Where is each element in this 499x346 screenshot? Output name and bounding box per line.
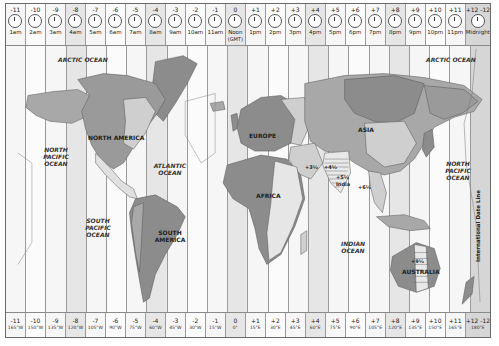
footer-zone-date-line: +12 -12180°E <box>466 313 490 337</box>
local-time: 9am <box>166 29 185 36</box>
local-time: 8am <box>146 29 165 36</box>
header-zone: -48am <box>146 4 166 45</box>
australia-label: AUSTRALIA <box>402 268 440 275</box>
utc-offset: +6 <box>346 6 365 13</box>
local-time: 6pm <box>346 29 365 36</box>
north-pacific-ocean-west-label: NORTH PACIFIC OCEAN <box>36 146 76 167</box>
header-zone: +22pm <box>266 4 286 45</box>
utc-offset: -5 <box>126 317 145 325</box>
local-time: 11am <box>206 29 225 36</box>
local-time: 10pm <box>426 29 445 36</box>
longitude: 135°E <box>406 325 425 331</box>
longitude: 15°W <box>206 325 225 331</box>
clock-icon <box>471 14 485 28</box>
header-zone: +33pm <box>286 4 306 45</box>
clock-icon <box>68 14 82 28</box>
header-zone: -93am <box>46 4 66 45</box>
longitude: 60°E <box>306 325 325 331</box>
longitude: 90°W <box>106 325 125 331</box>
clock-icon <box>308 14 322 28</box>
longitude: 135°W <box>46 325 65 331</box>
clock-icon <box>448 14 462 28</box>
clock-icon <box>108 14 122 28</box>
utc-offset: +1 <box>246 317 265 325</box>
south-pacific-ocean-label: SOUTH PACIFIC OCEAN <box>78 217 118 238</box>
south-america-label: SOUTH AMERICA <box>150 229 190 243</box>
footer-zone: +9135°E <box>406 313 426 337</box>
atlantic-ocean-label: ATLANTIC OCEAN <box>146 162 194 176</box>
utc-offset: +4 <box>306 317 325 325</box>
header-zone-gmt: 0Noon(GMT) <box>226 4 246 45</box>
longitude: 150°W <box>26 325 45 331</box>
north-pacific-ocean-east-label: NORTH PACIFIC OCEAN <box>438 160 478 181</box>
footer-zone: -230°W <box>186 313 206 337</box>
local-time: 10am <box>186 29 205 36</box>
utc-offset: -3 <box>166 6 185 13</box>
footer-zone: -7105°W <box>86 313 106 337</box>
header-zone: +1111pm <box>446 4 466 45</box>
utc-offset: -1 <box>206 317 225 325</box>
footer-zone: +10150°E <box>426 313 446 337</box>
clock-icon <box>208 14 222 28</box>
longitude: 60°W <box>146 325 165 331</box>
utc-offset: -6 <box>106 317 125 325</box>
longitude: 30°E <box>266 325 285 331</box>
utc-offset: +3 <box>286 317 305 325</box>
clock-icon <box>268 14 282 28</box>
longitude: 45°W <box>166 325 185 331</box>
header-zone: +99pm <box>406 4 426 45</box>
local-time: 4am <box>66 29 85 36</box>
header-zone: -57am <box>126 4 146 45</box>
utc-offset: +9 <box>406 6 425 13</box>
clock-icon <box>168 14 182 28</box>
utc-offset: +8 <box>386 317 405 325</box>
local-time: 5am <box>86 29 105 36</box>
gmt-label: (GMT) <box>226 36 245 42</box>
utc-offset: -6 <box>106 6 125 13</box>
clock-icon <box>228 14 242 28</box>
longitude: 30°W <box>186 325 205 331</box>
footer-zone: 00° <box>226 313 246 337</box>
clock-icon <box>368 14 382 28</box>
utc-offset: +6 <box>346 317 365 325</box>
local-time: 11pm <box>446 29 465 36</box>
clock-icon <box>8 14 22 28</box>
longitude: 150°E <box>426 325 445 331</box>
utc-offset: -11 <box>6 317 25 325</box>
utc-offset: -8 <box>66 317 85 325</box>
myanmar-offset-label: +6½ <box>358 184 371 191</box>
header-zone: +11pm <box>246 4 266 45</box>
utc-offset: -2 <box>186 317 205 325</box>
clock-icon <box>28 14 42 28</box>
utc-offset: -7 <box>86 6 105 13</box>
afghanistan-offset-label: +4½ <box>324 164 337 171</box>
longitude: 180°E <box>466 325 490 331</box>
clock-icon <box>248 14 262 28</box>
india-offset-label: +5½ <box>336 174 349 181</box>
utc-offset: -2 <box>186 6 205 13</box>
footer-zone: +115°E <box>246 313 266 337</box>
utc-offset: -7 <box>86 317 105 325</box>
longitude: 105°W <box>86 325 105 331</box>
local-time: Midnight <box>466 29 490 36</box>
utc-offset: -9 <box>46 317 65 325</box>
footer-zone: -8120°W <box>66 313 86 337</box>
asia-label: ASIA <box>358 126 374 133</box>
utc-offset: +5 <box>326 317 345 325</box>
utc-offset: -9 <box>46 6 65 13</box>
footer-zone: +345°E <box>286 313 306 337</box>
longitude: 15°E <box>246 325 265 331</box>
footer-zone: -11165°W <box>6 313 26 337</box>
local-time: 2pm <box>266 29 285 36</box>
clock-icon <box>148 14 162 28</box>
utc-offset: +5 <box>326 6 345 13</box>
utc-offset: -1 <box>206 6 225 13</box>
header-zone: +88pm <box>386 4 406 45</box>
north-america-label: NORTH AMERICA <box>88 134 144 141</box>
longitude: 165°W <box>6 325 25 331</box>
footer-zone: +575°E <box>326 313 346 337</box>
utc-offset: +4 <box>306 6 325 13</box>
australia-central-offset-label: +9½ <box>411 258 424 265</box>
longitude: 90°E <box>346 325 365 331</box>
longitude: 165°E <box>446 325 465 331</box>
